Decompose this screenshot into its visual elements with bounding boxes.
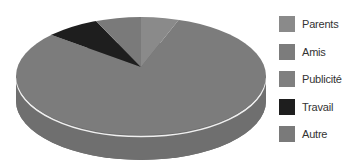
legend-swatch xyxy=(279,16,295,32)
legend-item-publicite: Publicité xyxy=(279,71,342,87)
legend-item-parents: Parents xyxy=(279,16,342,32)
legend-label: Amis xyxy=(302,46,326,58)
legend-item-amis: Amis xyxy=(279,44,342,60)
legend-item-travail: Travail xyxy=(279,99,342,115)
legend-label: Publicité xyxy=(302,73,342,85)
legend-swatch xyxy=(279,71,295,87)
legend-swatch xyxy=(279,99,295,115)
legend: Parents Amis Publicité Travail Autre xyxy=(279,16,342,154)
legend-item-autre: Autre xyxy=(279,126,342,142)
legend-label: Parents xyxy=(302,18,339,30)
legend-label: Travail xyxy=(302,101,333,113)
legend-swatch xyxy=(279,44,295,60)
pie-chart xyxy=(0,0,270,163)
legend-swatch xyxy=(279,126,295,142)
legend-label: Autre xyxy=(302,128,327,140)
